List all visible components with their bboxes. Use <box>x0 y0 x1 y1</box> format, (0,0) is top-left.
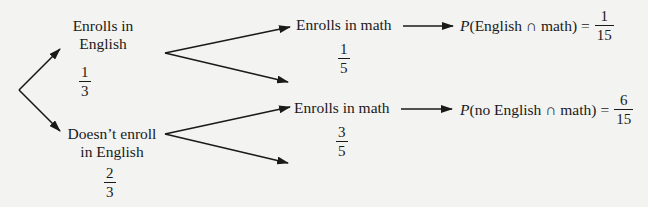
arrow-no-english-to-math <box>165 107 290 134</box>
probability-math-given-no-english: 3 5 <box>336 125 348 159</box>
node-label-line1: Enrolls in <box>58 17 148 35</box>
result-value: 6 15 <box>614 93 633 127</box>
arrow-no-english-to-no-math <box>165 134 288 163</box>
result-value: 1 15 <box>595 9 614 43</box>
node-no-english-math: Enrolls in math <box>294 99 390 117</box>
probability-english: 1 3 <box>79 65 91 99</box>
node-label-line2: English <box>58 35 148 53</box>
arrow-root-to-no-english <box>19 90 60 131</box>
arrow-root-to-english <box>19 49 60 90</box>
result-no-english-and-math: P (no English ∩ math) = 6 15 <box>460 93 633 127</box>
probability-no-english: 2 3 <box>104 166 116 200</box>
node-no-english: Doesn’t enroll in English <box>62 125 162 161</box>
node-enrolls-english: Enrolls in English <box>58 17 148 53</box>
result-expression: (no English ∩ math) <box>469 101 596 119</box>
node-label-line1: Doesn’t enroll <box>62 125 162 143</box>
arrow-english-to-math <box>165 27 290 53</box>
arrow-english-to-no-math <box>165 53 288 82</box>
result-expression: (English ∩ math) <box>469 17 577 35</box>
probability-tree-diagram: Enrolls in English 1 3 Doesn’t enroll in… <box>0 0 648 207</box>
probability-math-given-english: 1 5 <box>338 42 350 76</box>
node-english-math: Enrolls in math <box>296 16 392 34</box>
result-english-and-math: P (English ∩ math) = 1 15 <box>460 9 614 43</box>
node-label-line2: in English <box>62 143 162 161</box>
